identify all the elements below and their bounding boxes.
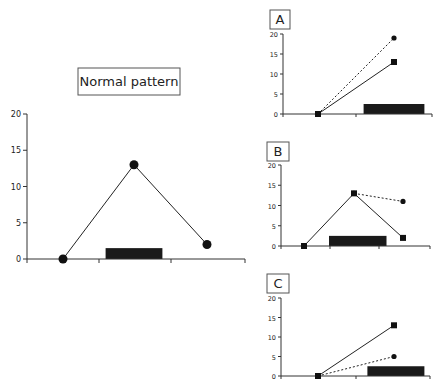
circle-marker — [315, 111, 320, 116]
y-tick-label: 10 — [270, 71, 278, 79]
y-tick-label: 20 — [270, 31, 278, 39]
panel-a-label-box: A — [270, 10, 290, 29]
circle-marker — [130, 160, 139, 169]
panel-b-label: B — [274, 144, 283, 159]
square-marker — [400, 235, 406, 241]
y-tick-label: 5 — [272, 354, 276, 362]
y-tick-label: 15 — [268, 182, 276, 190]
y-tick-label: 5 — [16, 219, 21, 228]
normal-title: Normal pattern — [80, 74, 179, 89]
circles-solid-line — [63, 165, 207, 259]
y-tick-label: 5 — [274, 91, 278, 99]
panel-c-label: C — [273, 276, 282, 291]
panel-a-label: A — [276, 12, 285, 27]
square-marker — [391, 59, 397, 65]
chart-panel-b: 05101520 — [268, 162, 430, 251]
chart-normal-pattern: 05101520 — [11, 110, 245, 264]
square-marker — [301, 243, 307, 249]
chart-panel-a: 05101520 — [270, 31, 432, 119]
circle-marker — [59, 255, 68, 264]
y-tick-label: 0 — [272, 373, 276, 381]
y-tick-label: 20 — [268, 295, 276, 303]
circle-marker — [351, 191, 356, 196]
stimulus-bar — [367, 366, 424, 376]
y-tick-label: 10 — [268, 334, 276, 342]
circle-marker — [391, 354, 396, 359]
panel-b-label-box: B — [267, 142, 289, 161]
figure-canvas: Normal pattern A B C 05101520 05101520 0… — [0, 0, 442, 392]
y-tick-label: 20 — [268, 162, 276, 170]
y-tick-label: 0 — [272, 243, 276, 251]
circles-dotted-line — [318, 38, 394, 114]
y-tick-label: 15 — [268, 315, 276, 323]
panel-c-label-box: C — [267, 274, 289, 293]
circle-marker — [391, 35, 396, 40]
y-tick-label: 15 — [270, 51, 278, 59]
y-tick-label: 0 — [274, 111, 278, 119]
circle-marker — [203, 240, 212, 249]
normal-title-box: Normal pattern — [78, 68, 180, 95]
square-marker — [391, 322, 397, 328]
y-tick-label: 5 — [272, 223, 276, 231]
stimulus-bar — [329, 236, 387, 246]
y-tick-label: 10 — [11, 183, 21, 192]
circle-marker — [400, 199, 405, 204]
circle-marker — [315, 373, 320, 378]
y-tick-label: 0 — [16, 255, 21, 264]
stimulus-bar — [364, 104, 425, 114]
chart-panel-c: 05101520 — [268, 295, 430, 381]
stimulus-bar — [106, 248, 163, 259]
y-tick-label: 15 — [11, 146, 21, 155]
y-tick-label: 20 — [11, 110, 21, 119]
y-tick-label: 10 — [268, 203, 276, 211]
